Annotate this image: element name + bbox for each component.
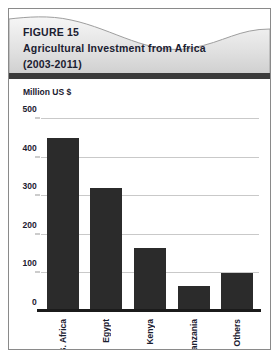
bar[interactable] [47,138,79,312]
y-axis-tick-label: 0 [32,297,37,307]
y-axis-tick-label: 400 [22,143,36,153]
figure-period-label: (2003-2011) [23,58,82,70]
bar[interactable] [90,188,122,312]
y-axis-tick-mark [35,233,40,234]
y-axis-tick-label: 100 [22,258,36,268]
header-banner: FIGURE 15 Agricultural Investment from A… [9,9,270,81]
x-axis-category-label: Others [232,319,242,346]
x-axis-category-label: Tanzania [189,319,199,350]
figure-title: Agricultural Investment from Africa [23,42,206,54]
plot-area: 0100200300400500 S. AfricaEgyptKenyaTanz… [41,119,259,312]
bar[interactable] [221,273,253,312]
y-axis-tick-mark [35,272,40,273]
chart-area: Million US $ 0100200300400500 S. AfricaE… [9,79,270,350]
x-axis-category-label: Kenya [145,319,155,345]
gridline [41,118,259,119]
y-axis-tick-mark [35,195,40,196]
x-axis-category-label: Egypt [101,319,111,343]
y-axis-tick-label: 500 [22,104,36,114]
bar[interactable] [134,248,166,312]
y-axis-tick-mark [35,118,40,119]
y-axis-tick-label: 300 [22,181,36,191]
x-axis-category-label: S. Africa [58,319,68,350]
x-axis-baseline [37,309,261,312]
figure-card: FIGURE 15 Agricultural Investment from A… [8,8,271,350]
y-axis-tick-label: 200 [22,220,36,230]
figure-number-label: FIGURE 15 [23,26,79,38]
y-axis-title: Million US $ [23,87,71,97]
y-axis-tick-mark [35,156,40,157]
